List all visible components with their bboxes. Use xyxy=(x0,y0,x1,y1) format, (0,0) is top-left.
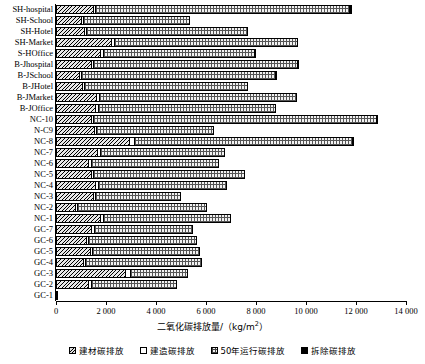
y-axis-label-wrap: GC-6 xyxy=(0,235,53,246)
y-axis-label-wrap: NC-3 xyxy=(0,191,53,202)
y-axis-label: SH-Hotel xyxy=(20,26,53,37)
bar[interactable] xyxy=(56,170,245,179)
x-axis-tick-label: 8 000 xyxy=(246,306,265,316)
bar[interactable] xyxy=(56,203,207,212)
bar[interactable] xyxy=(56,5,352,14)
stacked-bar-chart: 02 0004 0006 0008 00010 00012 00014 000 … xyxy=(0,0,425,364)
y-axis-label: NC-2 xyxy=(34,202,53,213)
y-axis-label: SH-hospital xyxy=(12,4,53,15)
bar[interactable] xyxy=(56,38,298,47)
bar-segment-demolish xyxy=(296,94,298,101)
bar[interactable] xyxy=(56,280,177,289)
bar-segment-demolish xyxy=(376,116,379,123)
x-axis-tick-label: 6 000 xyxy=(196,306,215,316)
bar[interactable] xyxy=(56,192,181,201)
y-axis-label: B-JHotel xyxy=(22,81,53,92)
y-axis-label-wrap: NC-6 xyxy=(0,158,53,169)
bar-segment-operation xyxy=(91,281,177,288)
y-axis-label: NC-8 xyxy=(34,136,53,147)
y-axis-label: NC-4 xyxy=(34,180,53,191)
y-axis-label: SH-Market xyxy=(15,37,53,48)
bar[interactable] xyxy=(56,93,297,102)
bar-segment-operation xyxy=(83,17,190,24)
bar-segment-demolish xyxy=(197,237,198,244)
bar-segment-operation xyxy=(88,237,197,244)
x-axis-tick-label: 2 000 xyxy=(96,306,115,316)
bar[interactable] xyxy=(56,115,378,124)
x-axis-tick-label: 12 000 xyxy=(344,306,367,316)
y-axis-label-wrap: GC-4 xyxy=(0,257,53,268)
bar-segment-material xyxy=(57,160,88,167)
bar-segment-operation xyxy=(100,149,224,156)
y-axis-label-wrap: SH-Hotel xyxy=(0,26,53,37)
y-axis-label-wrap: B-JOffice xyxy=(0,103,53,114)
bar[interactable] xyxy=(56,16,190,25)
bar[interactable] xyxy=(56,236,197,245)
x-axis-tick xyxy=(106,301,107,305)
bar-segment-material xyxy=(57,182,95,189)
bar-segment-material xyxy=(57,127,94,134)
legend-item-material[interactable]: 建材碳排放 xyxy=(69,344,124,356)
legend-item-construct[interactable]: 建造碳排放 xyxy=(140,344,195,356)
bar[interactable] xyxy=(56,60,299,69)
y-axis-label: B-JSchool xyxy=(18,70,53,81)
bar-segment-material xyxy=(57,50,100,57)
bar[interactable] xyxy=(56,159,219,168)
y-axis-label: GC-5 xyxy=(34,246,53,257)
legend-item-operation[interactable]: 50年运行碳排放 xyxy=(211,344,286,356)
bar-segment-demolish xyxy=(200,248,201,255)
x-axis-tick xyxy=(306,301,307,305)
y-axis-label-wrap: SH-hospital xyxy=(0,4,53,15)
y-axis-label: NC-6 xyxy=(34,158,53,169)
bar-segment-demolish xyxy=(230,215,231,222)
bar-segment-construct xyxy=(57,292,58,299)
x-axis-tick xyxy=(156,301,157,305)
bar-segment-demolish xyxy=(201,259,202,266)
bar[interactable] xyxy=(56,225,193,234)
x-axis-line xyxy=(56,301,406,302)
y-axis-label: GC-7 xyxy=(34,224,53,235)
bar[interactable] xyxy=(56,137,354,146)
bar[interactable] xyxy=(56,148,225,157)
bar-segment-operation xyxy=(134,138,352,145)
y-axis-label: GC-1 xyxy=(34,290,53,301)
bar-segment-demolish xyxy=(247,83,248,90)
bar-segment-operation xyxy=(130,270,188,277)
bar-segment-operation xyxy=(103,215,231,222)
bar[interactable] xyxy=(56,104,276,113)
bar-segment-material xyxy=(57,28,84,35)
legend-swatch-operation xyxy=(211,347,218,354)
bar[interactable] xyxy=(56,49,256,58)
bar[interactable] xyxy=(56,214,231,223)
bar[interactable] xyxy=(56,126,214,135)
bar[interactable] xyxy=(56,247,200,256)
bar-segment-demolish xyxy=(224,149,225,156)
bar-segment-material xyxy=(57,204,75,211)
bar-segment-demolish xyxy=(219,160,220,167)
y-axis-label: GC-6 xyxy=(34,235,53,246)
y-axis-label: N-C9 xyxy=(34,125,53,136)
bar-segment-material xyxy=(57,61,91,68)
bar-segment-operation xyxy=(98,105,275,112)
bar-segment-material xyxy=(57,237,86,244)
bar[interactable] xyxy=(56,291,58,300)
bar-segment-material xyxy=(57,149,97,156)
bar[interactable] xyxy=(56,258,202,267)
legend-label: 拆除碳排放 xyxy=(311,344,356,356)
bar[interactable] xyxy=(56,269,188,278)
bar-segment-demolish xyxy=(349,6,351,13)
bar-segment-demolish xyxy=(206,204,207,211)
y-axis-label: B-JMarket xyxy=(17,92,53,103)
y-axis-label-wrap: GC-2 xyxy=(0,279,53,290)
bar-segment-operation xyxy=(86,28,247,35)
bar-segment-material xyxy=(57,6,93,13)
legend-item-demolish[interactable]: 拆除碳排放 xyxy=(301,344,356,356)
bar[interactable] xyxy=(56,181,227,190)
bar[interactable] xyxy=(56,82,248,91)
bar-segment-operation xyxy=(103,50,254,57)
bar-segment-material xyxy=(57,138,129,145)
bar[interactable] xyxy=(56,71,277,80)
bar-segment-material xyxy=(57,39,111,46)
bar[interactable] xyxy=(56,27,248,36)
bar-segment-operation xyxy=(77,204,207,211)
